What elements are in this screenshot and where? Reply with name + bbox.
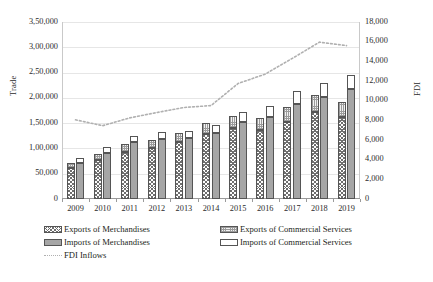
x-axis-ticklabel: 2009 bbox=[62, 204, 90, 213]
legend-label: FDI Inflows bbox=[64, 250, 106, 260]
legend-row: Imports of Merchandises Imports of Comme… bbox=[44, 237, 404, 247]
grey-swatch-icon bbox=[44, 239, 62, 246]
y-axis-right-ticklabel: 0 bbox=[365, 194, 369, 203]
x-axis-ticklabel: 2012 bbox=[143, 204, 171, 213]
x-axis-ticklabel: 2016 bbox=[251, 204, 279, 213]
y-axis-left-ticklabel: 0 bbox=[54, 194, 58, 203]
y-axis-right-ticklabel: 16,000 bbox=[365, 36, 388, 45]
x-axis-tick bbox=[279, 199, 280, 202]
legend-item-exports-of-commercial-services: Exports of Commercial Services bbox=[220, 224, 400, 234]
y-axis-left-ticklabel: 2,50,000 bbox=[29, 67, 58, 76]
x-axis-tick bbox=[89, 199, 90, 202]
x-axis-ticklabel: 2019 bbox=[333, 204, 361, 213]
x-axis-ticklabel: 2017 bbox=[278, 204, 306, 213]
y-axis-right-ticklabel: 18,000 bbox=[365, 17, 388, 26]
y-axis-left-ticklabel: 1,00,000 bbox=[29, 143, 58, 152]
plot-area bbox=[62, 22, 360, 199]
legend-item-imports-of-merchandises: Imports of Merchandises bbox=[44, 237, 220, 247]
y-axis-left-ticklabel: 1,50,000 bbox=[29, 118, 58, 127]
speckle-swatch-icon bbox=[220, 226, 238, 233]
y-axis-right-ticklabel: 12,000 bbox=[365, 76, 388, 85]
legend-label: Imports of Commercial Services bbox=[240, 237, 352, 247]
x-axis-tick bbox=[116, 199, 117, 202]
y-axis-left-ticklabel: 3,00,000 bbox=[29, 42, 58, 51]
y-axis-left-title: Trade bbox=[8, 75, 18, 96]
fdi-line-series bbox=[62, 22, 360, 199]
hatch-swatch-icon bbox=[44, 226, 62, 233]
y-axis-left-ticklabel: 2,00,000 bbox=[29, 92, 58, 101]
legend-item-fdi-inflows: FDI Inflows bbox=[44, 250, 220, 260]
x-axis-tick bbox=[306, 199, 307, 202]
x-axis-tick bbox=[360, 199, 361, 202]
y-axis-right-title: FDI bbox=[412, 82, 422, 96]
x-axis-ticklabel: 2010 bbox=[89, 204, 117, 213]
legend-label: Exports of Merchandises bbox=[64, 224, 150, 234]
legend-label: Imports of Merchandises bbox=[64, 237, 150, 247]
legend-label: Exports of Commercial Services bbox=[240, 224, 352, 234]
x-axis-ticklabel: 2014 bbox=[197, 204, 225, 213]
chart-figure: Trade FDI 3,50,0003,00,0002,50,0002,00,0… bbox=[0, 0, 433, 282]
x-axis-ticklabel: 2013 bbox=[170, 204, 198, 213]
y-axis-left-ticklabel: 3,50,000 bbox=[29, 17, 58, 26]
legend-row: FDI Inflows bbox=[44, 250, 404, 260]
x-axis-ticklabel: 2011 bbox=[116, 204, 144, 213]
chart-legend: Exports of Merchandises Exports of Comme… bbox=[44, 224, 404, 263]
y-axis-right-ticklabel: 14,000 bbox=[365, 56, 388, 65]
x-axis-tick bbox=[143, 199, 144, 202]
white-swatch-icon bbox=[220, 239, 238, 246]
y-axis-right-ticklabel: 8,000 bbox=[365, 115, 384, 124]
x-axis-tick bbox=[170, 199, 171, 202]
y-axis-left-ticklabel: 50,000 bbox=[35, 168, 58, 177]
x-axis-ticklabel: 2015 bbox=[224, 204, 252, 213]
legend-item-exports-of-merchandises: Exports of Merchandises bbox=[44, 224, 220, 234]
y-axis-right-ticklabel: 6,000 bbox=[365, 135, 384, 144]
y-axis-right-ticklabel: 10,000 bbox=[365, 95, 388, 104]
y-axis-right-ticklabel: 4,000 bbox=[365, 154, 384, 163]
legend-item-imports-of-commercial-services: Imports of Commercial Services bbox=[220, 237, 400, 247]
x-axis-ticklabel: 2018 bbox=[305, 204, 333, 213]
legend-row: Exports of Merchandises Exports of Comme… bbox=[44, 224, 404, 234]
dotted-line-swatch-icon bbox=[44, 252, 62, 259]
y-axis-right-ticklabel: 2,000 bbox=[365, 174, 384, 183]
x-axis-tick bbox=[198, 199, 199, 202]
x-axis-tick bbox=[225, 199, 226, 202]
x-axis-tick bbox=[252, 199, 253, 202]
x-axis-tick bbox=[62, 199, 63, 202]
x-axis-tick bbox=[333, 199, 334, 202]
